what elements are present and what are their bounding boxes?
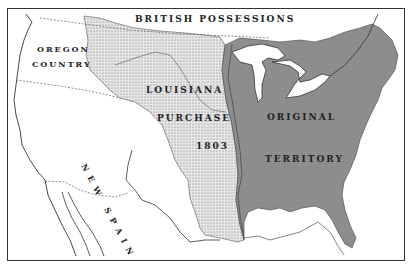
label-oregon: OREGON	[37, 44, 90, 54]
gulf-coast	[244, 222, 344, 255]
label-country: COUNTRY	[32, 59, 92, 69]
map-canvas	[0, 0, 414, 271]
label-british-possessions: BRITISH POSSESSIONS	[135, 14, 295, 24]
label-1803: 1803	[196, 141, 229, 151]
label-purchase: PURCHASE	[157, 113, 231, 123]
label-original: ORIGINAL	[267, 112, 336, 122]
label-louisiana: LOUISIANA	[146, 85, 223, 95]
mexico-border	[45, 181, 128, 197]
label-territory: TERRITORY	[265, 154, 344, 164]
